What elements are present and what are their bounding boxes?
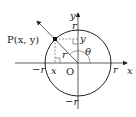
point-p xyxy=(53,37,57,41)
y-coordinate-label: y xyxy=(79,33,86,44)
point-label: P(x, y) xyxy=(7,34,39,45)
right-angle-mark-x xyxy=(55,58,60,63)
angle-label: θ xyxy=(85,46,91,57)
right-angle-mark-y xyxy=(73,39,78,44)
radius-label: r xyxy=(62,49,68,60)
origin-label: O xyxy=(66,66,74,77)
r-negative-y-label: −r xyxy=(65,96,79,107)
x-coordinate-label: x xyxy=(51,65,57,76)
r-positive-x-label: r xyxy=(113,64,119,75)
r-negative-x-label: −r xyxy=(32,64,46,75)
x-axis-label: x xyxy=(127,65,133,76)
r-positive-y-label: r xyxy=(72,20,78,31)
unit-circle-diagram: P(x, y) O x y θ r x y r −r r −r xyxy=(0,0,136,117)
